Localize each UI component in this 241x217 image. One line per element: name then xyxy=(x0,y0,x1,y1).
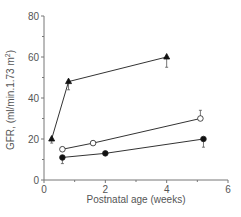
series-line xyxy=(62,119,200,150)
axes: 0246020406080 xyxy=(28,11,231,196)
triangle-marker xyxy=(164,54,170,60)
circle-marker xyxy=(60,146,66,152)
y-tick-label: 60 xyxy=(28,52,40,63)
y-tick-label: 20 xyxy=(28,134,40,145)
series-line xyxy=(62,139,203,157)
circle-marker xyxy=(201,136,207,142)
y-axis-label: GFR, (ml/min.1.73 m2) xyxy=(4,50,16,150)
x-tick-label: 6 xyxy=(225,184,231,195)
x-tick-label: 0 xyxy=(41,184,47,195)
triangle-marker xyxy=(49,136,55,142)
y-tick-label: 80 xyxy=(28,11,40,22)
circle-marker xyxy=(198,116,204,122)
gfr-chart: 0246020406080 Postnatal age (weeks) GFR,… xyxy=(0,0,241,217)
y-tick-label: 0 xyxy=(33,175,39,186)
series-circle-filled xyxy=(60,136,207,163)
x-axis-label: Postnatal age (weeks) xyxy=(87,194,186,205)
series-circle-open xyxy=(60,110,204,152)
circle-marker xyxy=(60,155,66,161)
circle-marker xyxy=(103,151,109,157)
circle-marker xyxy=(90,140,96,146)
plot-area xyxy=(49,54,207,164)
y-tick-label: 40 xyxy=(28,93,40,104)
series-line xyxy=(52,57,167,139)
